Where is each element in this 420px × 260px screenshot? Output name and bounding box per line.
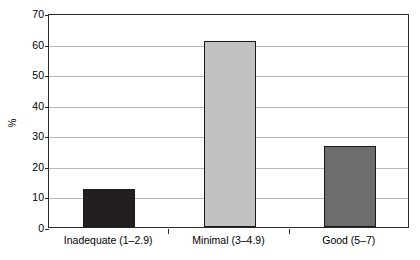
y-axis-tick-label: 60	[6, 40, 44, 50]
y-axis-tick-label: 0	[6, 223, 44, 233]
x-axis-tick-mark	[168, 229, 169, 234]
x-axis-tick-mark	[289, 229, 290, 234]
y-axis-tick-mark	[45, 198, 49, 199]
bar	[204, 41, 256, 227]
y-axis-tick-mark	[45, 229, 49, 230]
y-axis-tick-label: 40	[6, 101, 44, 111]
bar	[324, 146, 376, 227]
y-axis-tick-mark	[45, 15, 49, 16]
x-axis-tick-label: Good (5–7)	[289, 234, 409, 247]
y-axis-tick-label: 30	[6, 131, 44, 141]
bar-chart: % 010203040506070 Inadequate (1–2.9)Mini…	[0, 0, 420, 260]
y-axis-tick-label: 70	[6, 9, 44, 19]
y-axis-tick-label: 20	[6, 162, 44, 172]
x-axis-tick-label: Inadequate (1–2.9)	[48, 234, 168, 247]
y-axis-tick-labels: 010203040506070	[4, 0, 44, 260]
plot-area	[48, 14, 409, 228]
y-axis-tick-mark	[45, 107, 49, 108]
y-axis-tick-label: 50	[6, 70, 44, 80]
x-axis-tick-label: Minimal (3–4.9)	[168, 234, 288, 247]
y-axis-tick-label: 10	[6, 192, 44, 202]
y-axis-tick-mark	[45, 76, 49, 77]
y-axis-tick-mark	[45, 137, 49, 138]
bar	[83, 189, 135, 227]
y-axis-tick-mark	[45, 46, 49, 47]
y-axis-tick-mark	[45, 168, 49, 169]
